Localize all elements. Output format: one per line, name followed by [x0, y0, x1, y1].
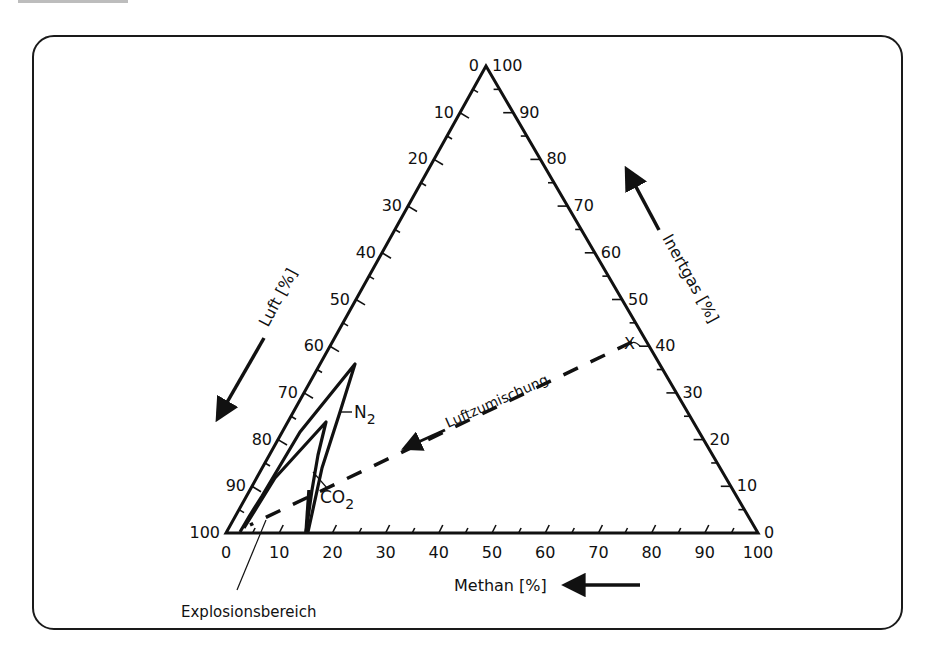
n2-label: N2: [354, 402, 376, 427]
tick-label: 50: [482, 543, 502, 562]
tick-label: 20: [408, 149, 428, 168]
tick-label: 10: [737, 476, 757, 495]
tick-label: 60: [304, 336, 324, 355]
tick-label: 30: [375, 543, 395, 562]
tick-mark: [304, 393, 313, 398]
tick-label: 10: [434, 103, 454, 122]
co2-label: CO2: [320, 487, 354, 512]
tick-label: 100: [189, 523, 220, 542]
luftzumischung-dashed-line: [250, 342, 632, 525]
tick-label: 20: [322, 543, 342, 562]
ternary-triangle: [226, 66, 758, 533]
tick-mark: [434, 159, 443, 164]
tick-label: 40: [356, 243, 376, 262]
inertgas-axis-title: Inertgas [%]: [659, 231, 723, 326]
luftzumischung-arrow: [405, 430, 445, 448]
tick-mark: [356, 300, 365, 305]
luft-direction-arrow: [218, 338, 264, 418]
tick-mark: [278, 440, 287, 445]
inertgas-direction-arrow: [627, 170, 659, 230]
tick-label: 20: [710, 430, 730, 449]
tick-mark: [252, 486, 261, 491]
tick-label: 30: [382, 196, 402, 215]
tick-mark: [408, 206, 417, 211]
tick-label: 50: [330, 290, 350, 309]
tick-label: 60: [601, 243, 621, 262]
tick-label: 70: [278, 383, 298, 402]
ternary-diagram: 0102030405060708090100102030405060708090…: [0, 0, 934, 662]
tick-label: 100: [743, 543, 774, 562]
tick-label: 60: [535, 543, 555, 562]
luft-axis-title: Luft [%]: [255, 265, 301, 330]
tick-label: 90: [695, 543, 715, 562]
tick-label: 0: [221, 543, 231, 562]
x-marker-label: X: [624, 334, 635, 353]
tick-label: 70: [574, 196, 594, 215]
tick-label: 40: [655, 336, 675, 355]
tick-label: 0: [764, 523, 774, 542]
tick-label: 80: [252, 430, 272, 449]
tick-label: 100: [492, 56, 523, 75]
luftzumischung-label: Luftzumischung: [443, 371, 551, 431]
methan-axis-title: Methan [%]: [454, 576, 547, 595]
tick-label: 90: [226, 476, 246, 495]
tick-mark: [460, 113, 469, 118]
tick-label: 30: [682, 383, 702, 402]
tick-label: 70: [588, 543, 608, 562]
tick-mark: [330, 346, 339, 351]
tick-label: 50: [628, 290, 648, 309]
tick-label: 80: [641, 543, 661, 562]
tick-label: 10: [269, 543, 289, 562]
tick-mark: [382, 253, 391, 258]
tick-label: 90: [519, 103, 539, 122]
tick-label: 40: [429, 543, 449, 562]
tick-label: 80: [546, 149, 566, 168]
tick-label: 0: [469, 56, 479, 75]
explosionsbereich-label: Explosionsbereich: [181, 603, 316, 621]
